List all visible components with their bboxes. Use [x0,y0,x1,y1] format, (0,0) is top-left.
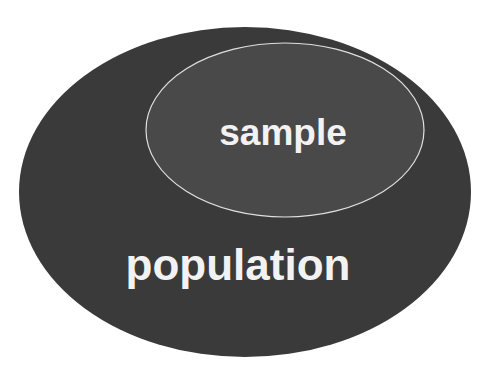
sample-label: sample [219,112,347,153]
population-label: population [126,240,351,289]
population-sample-diagram: sample population [0,0,486,372]
